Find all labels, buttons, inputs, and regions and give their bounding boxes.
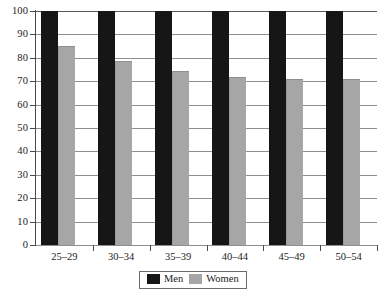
x-axis-label-40–44: 40–44 <box>207 252 264 263</box>
x-tick-5 <box>320 245 321 251</box>
bar-chart: 0102030405060708090100 25–2930–3435–3940… <box>0 0 388 295</box>
y-axis-label-20: 20 <box>0 193 28 204</box>
y-tick-0 <box>30 245 36 246</box>
bar-women-45–49 <box>286 79 303 245</box>
legend-item-men: Men <box>147 274 183 285</box>
y-axis-label-100: 100 <box>0 6 28 17</box>
legend-swatch-women-icon <box>189 274 202 284</box>
legend-label-women: Women <box>206 274 238 285</box>
bar-men-25–29 <box>41 11 58 245</box>
y-axis-label-70: 70 <box>0 76 28 87</box>
x-axis-label-35–39: 35–39 <box>150 252 207 263</box>
bar-men-30–34 <box>98 11 115 245</box>
legend-swatch-men-icon <box>147 274 160 284</box>
y-axis-label-0: 0 <box>0 240 28 251</box>
x-tick-4 <box>263 245 264 251</box>
y-axis-label-40: 40 <box>0 146 28 157</box>
x-axis-label-25–29: 25–29 <box>36 252 93 263</box>
x-axis-label-50–54: 50–54 <box>320 252 377 263</box>
y-axis-label-10: 10 <box>0 217 28 228</box>
legend-label-men: Men <box>164 274 183 285</box>
bar-men-50–54 <box>326 11 343 245</box>
y-axis-label-30: 30 <box>0 170 28 181</box>
bars-layer <box>36 11 377 245</box>
y-axis-label-80: 80 <box>0 53 28 64</box>
bar-women-30–34 <box>115 61 132 245</box>
bar-men-35–39 <box>155 11 172 245</box>
bar-women-40–44 <box>229 77 246 245</box>
bar-women-35–39 <box>172 71 189 245</box>
x-axis-label-45–49: 45–49 <box>263 252 320 263</box>
y-axis-label-60: 60 <box>0 100 28 111</box>
bar-women-50–54 <box>343 79 360 245</box>
x-tick-3 <box>207 245 208 251</box>
x-tick-2 <box>150 245 151 251</box>
y-axis-label-50: 50 <box>0 123 28 134</box>
bar-women-25–29 <box>58 46 75 245</box>
x-axis-label-30–34: 30–34 <box>93 252 150 263</box>
bar-men-40–44 <box>212 11 229 245</box>
chart-legend: Men Women <box>139 271 247 289</box>
bar-men-45–49 <box>269 11 286 245</box>
x-tick-end <box>377 245 378 251</box>
x-tick-1 <box>93 245 94 251</box>
y-axis-label-90: 90 <box>0 29 28 40</box>
legend-item-women: Women <box>189 274 238 285</box>
